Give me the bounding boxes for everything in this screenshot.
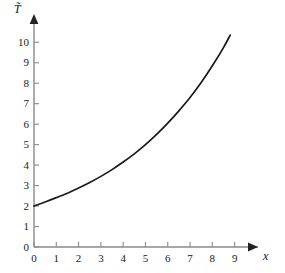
x-axis-arrowhead [248,243,258,252]
y-axis-tick-label: 9 [7,57,29,68]
data-series-curve [34,35,230,206]
x-axis-tick-label: 0 [24,253,44,264]
x-axis-tick-label: 2 [69,253,89,264]
x-axis-tick-label: 8 [202,253,222,264]
y-axis-tick-label: 4 [7,160,29,171]
x-axis-tick-label: 4 [113,253,133,264]
x-axis-tick-label: 3 [91,253,111,264]
y-axis-tick-label: 2 [7,201,29,212]
x-axis-tick-label: 6 [158,253,178,264]
x-axis-title: x [263,250,268,262]
x-axis-ticks [34,242,235,247]
y-axis-ticks [34,42,39,247]
x-axis-tick-label: 1 [46,253,66,264]
x-axis-tick-label: 9 [225,253,245,264]
y-axis-tick-label: 3 [7,180,29,191]
y-axis-arrowhead [30,14,39,24]
y-axis-title: T̃ [14,3,21,15]
x-axis-tick-label: 5 [135,253,155,264]
y-axis-tick-label: 6 [7,119,29,130]
chart-figure: 012345678910 0123456789 T̃ x [0,0,285,273]
y-axis-tick-label: 7 [7,98,29,109]
y-axis-tick-label: 0 [7,242,29,253]
y-axis-tick-label: 10 [7,37,29,48]
y-axis-tick-label: 8 [7,78,29,89]
chart-plot-area [0,0,285,273]
y-axis-tick-label: 5 [7,139,29,150]
y-axis-tick-label: 1 [7,221,29,232]
x-axis-tick-label: 7 [180,253,200,264]
axes-group [30,14,258,251]
